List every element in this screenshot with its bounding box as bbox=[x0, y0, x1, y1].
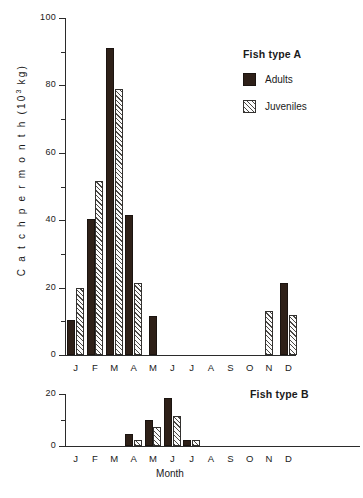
legend-item-adults[interactable]: Adults bbox=[243, 73, 361, 86]
panel-a-fish-type-a: C a t c h p e r m o n t h (103 kg) 02040… bbox=[0, 0, 363, 382]
y-axis-tick bbox=[61, 420, 65, 421]
y-axis-tick bbox=[59, 446, 65, 447]
y-axis-tick bbox=[61, 321, 65, 322]
bar-adults bbox=[145, 420, 153, 446]
y-axis-tick-label: 100 bbox=[14, 12, 56, 22]
bar-adults bbox=[164, 398, 172, 446]
solid-swatch-icon bbox=[243, 73, 256, 86]
bar-juveniles bbox=[153, 427, 161, 447]
y-axis-tick-label: 80 bbox=[14, 79, 56, 89]
bar-adults bbox=[125, 215, 133, 355]
bar-juveniles bbox=[76, 288, 84, 355]
bar-juveniles bbox=[265, 311, 273, 355]
bar-adults bbox=[280, 283, 288, 355]
bar-adults bbox=[183, 440, 191, 447]
x-axis-tick-label: D bbox=[276, 362, 300, 373]
legend-item-juveniles[interactable]: Juveniles bbox=[243, 100, 361, 113]
bar-juveniles bbox=[192, 440, 200, 447]
hatched-swatch-icon bbox=[243, 100, 256, 113]
y-axis-tick-label: 0 bbox=[14, 440, 56, 450]
y-axis-tick-label: 60 bbox=[14, 147, 56, 157]
y-axis-title-exponent: 3 bbox=[15, 90, 22, 94]
legend: Fish type A Adults Juveniles bbox=[243, 48, 361, 127]
x-axis-line-b bbox=[66, 446, 360, 447]
y-axis-title-prefix: C a t c h p e r m o n t h (10 bbox=[16, 93, 27, 276]
legend-item-label: Adults bbox=[265, 74, 293, 85]
legend-item-label: Juveniles bbox=[265, 101, 307, 112]
y-axis-tick-label: 20 bbox=[14, 282, 56, 292]
bar-juveniles bbox=[173, 416, 181, 446]
y-axis-tick-label: 0 bbox=[14, 349, 56, 359]
fish-catch-figure: C a t c h p e r m o n t h (103 kg) 02040… bbox=[0, 0, 363, 498]
y-axis-tick bbox=[61, 52, 65, 53]
bar-juveniles bbox=[134, 283, 142, 355]
y-axis-tick bbox=[59, 288, 65, 289]
bar-juveniles bbox=[289, 315, 297, 355]
legend-title: Fish type A bbox=[243, 48, 361, 60]
bar-juveniles bbox=[115, 89, 123, 355]
y-axis-tick bbox=[61, 187, 65, 188]
y-axis-tick bbox=[59, 85, 65, 86]
bar-adults bbox=[87, 219, 95, 355]
bar-juveniles bbox=[95, 181, 103, 355]
bar-juveniles bbox=[134, 440, 142, 447]
bar-adults bbox=[125, 434, 133, 446]
y-axis-tick-label: 40 bbox=[14, 214, 56, 224]
y-axis-title: C a t c h p e r m o n t h (103 kg) bbox=[15, 76, 27, 276]
x-axis-tick-label: D bbox=[276, 453, 300, 464]
bar-adults bbox=[106, 48, 114, 355]
panel-b-fish-type-b: 020 JFMAMJJASOND Month Fish type B bbox=[0, 382, 363, 498]
panel-b-title: Fish type B bbox=[250, 388, 309, 400]
y-axis-tick bbox=[59, 18, 65, 19]
y-axis-tick bbox=[59, 355, 65, 356]
y-axis-tick bbox=[59, 153, 65, 154]
bar-adults bbox=[149, 316, 157, 355]
y-axis-tick bbox=[61, 119, 65, 120]
plot-area-b bbox=[66, 394, 298, 446]
x-axis-line-a bbox=[66, 355, 296, 356]
y-axis-tick bbox=[59, 220, 65, 221]
bar-adults bbox=[67, 320, 75, 355]
y-axis-tick-label: 20 bbox=[14, 388, 56, 398]
x-axis-title: Month bbox=[110, 468, 230, 479]
y-axis-tick bbox=[61, 254, 65, 255]
y-axis-tick bbox=[59, 394, 65, 395]
